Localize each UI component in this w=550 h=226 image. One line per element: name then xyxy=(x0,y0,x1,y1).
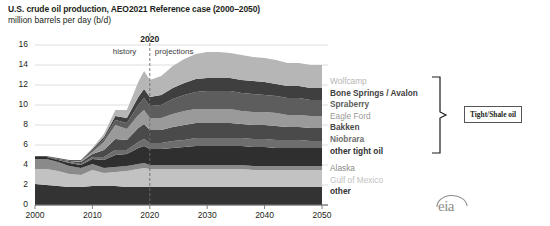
history-label: history xyxy=(113,47,137,56)
x-axis-tick-label: 2040 xyxy=(245,210,285,220)
y-axis-tick-label: 12 xyxy=(6,79,28,89)
legend-item-eagle-ford: Eagle Ford xyxy=(330,111,371,123)
chart-title: U.S. crude oil production, AEO2021 Refer… xyxy=(8,4,260,14)
legend-item-other-tight-oil: other tight oil xyxy=(330,146,383,158)
area-series xyxy=(35,184,322,205)
projections-label: projections xyxy=(155,47,194,56)
y-axis-tick-label: 4 xyxy=(6,159,28,169)
x-axis-tick-label: 2030 xyxy=(187,210,227,220)
area-series xyxy=(35,146,322,168)
x-axis-tick-label: 2010 xyxy=(72,210,112,220)
y-axis-tick-label: 0 xyxy=(6,199,28,209)
y-axis-tick-label: 16 xyxy=(6,39,28,49)
eia-logo-arc xyxy=(436,193,470,209)
y-axis-tick-label: 2 xyxy=(6,179,28,189)
legend-item-wolfcamp: Wolfcamp xyxy=(330,76,367,88)
legend-item-gulf-of-mexico: Gulf of Mexico xyxy=(330,175,383,187)
legend-item-spraberry: Spraberry xyxy=(330,99,369,111)
legend-item-bone-springs-avalon: Bone Springs / Avalon xyxy=(330,88,418,100)
y-axis-tick-label: 6 xyxy=(6,139,28,149)
y-axis-tick-label: 8 xyxy=(6,119,28,129)
x-axis-tick-label: 2000 xyxy=(15,210,55,220)
tight-shale-bracket xyxy=(430,74,450,164)
tight-shale-oil-box: Tight/Shale oil xyxy=(464,106,522,123)
x-axis-tick-label: 2020 xyxy=(130,210,170,220)
legend-item-other: other xyxy=(330,186,351,198)
legend-item-alaska: Alaska xyxy=(330,163,355,175)
y-axis-tick-label: 10 xyxy=(6,99,28,109)
legend-item-bakken: Bakken xyxy=(330,122,360,134)
chart-subtitle: million barrels per day (b/d) xyxy=(8,15,111,25)
y-axis-tick-label: 14 xyxy=(6,59,28,69)
legend-item-niobrara: Niobrara xyxy=(330,134,364,146)
x-axis-tick-label: 2050 xyxy=(302,210,342,220)
divider-year-label: 2020 xyxy=(130,34,170,44)
